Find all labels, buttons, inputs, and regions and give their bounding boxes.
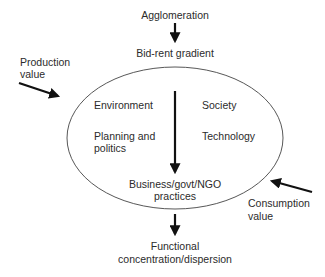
output-label-line2: concentration/dispersion — [118, 253, 232, 265]
practices-label-line2: practices — [154, 190, 196, 202]
agglomeration-label: Agglomeration — [141, 9, 209, 21]
consumption-value-label-line1: Consumption — [248, 197, 310, 209]
environment-label: Environment — [94, 99, 153, 111]
planning-label-line1: Planning and — [94, 130, 155, 142]
diagram-svg: Agglomeration Bid-rent gradient Producti… — [0, 0, 325, 277]
bid-rent-gradient-label: Bid-rent gradient — [136, 47, 214, 59]
diagram-canvas: Agglomeration Bid-rent gradient Producti… — [0, 0, 325, 277]
production-value-label-line1: Production — [20, 56, 70, 68]
output-label-line1: Functional — [151, 240, 199, 252]
production-value-label-line2: value — [20, 68, 45, 80]
planning-label-line2: politics — [94, 142, 126, 154]
production-value-arrow-icon — [19, 83, 58, 96]
consumption-value-arrow-icon — [272, 181, 312, 192]
society-label: Society — [202, 99, 237, 111]
technology-label: Technology — [202, 130, 256, 142]
practices-label-line1: Business/govt/NGO — [129, 178, 221, 190]
consumption-value-label-line2: value — [248, 210, 273, 222]
